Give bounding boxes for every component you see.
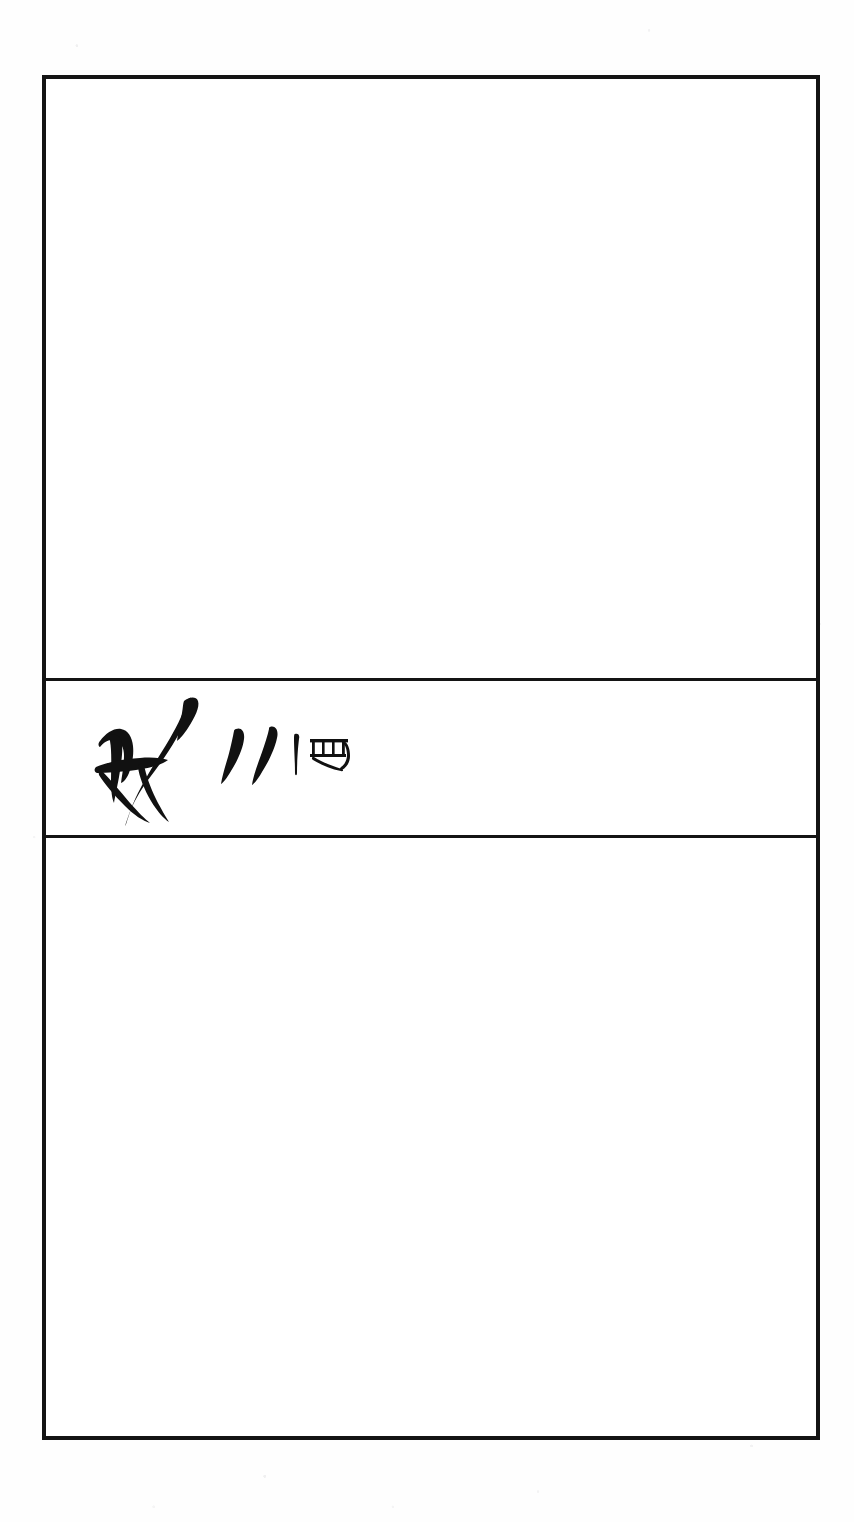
glyph-reading-box: small rectangular frame character with i… [308,775,309,776]
table-cell-lower-blank [46,838,816,1436]
brush-calligraphy-glyph: brush-written seal-script character [88,695,214,827]
glyph-reading-main: brush-written seal-script character [88,827,89,828]
scanned-page: brush-written seal-script character two … [0,0,854,1522]
bordered-table-frame: brush-written seal-script character two … [42,75,820,1440]
box-frame-glyph: small rectangular frame character with i… [308,735,354,775]
ditto-stroke-pair: two comma-shaped repetition strokes [214,725,282,787]
table-cell-upper-blank [46,79,816,678]
vertical-tally-stroke: single vertical stroke [289,733,305,777]
table-cell-inscription: brush-written seal-script character two … [46,678,816,838]
glyph-reading-tally: single vertical stroke [289,777,290,778]
inscription-line: brush-written seal-script character two … [46,681,816,835]
glyph-reading-ditto: two comma-shaped repetition strokes [214,787,215,788]
